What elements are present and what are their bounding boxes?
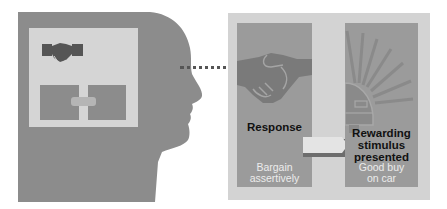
car-sunburst-icon [345, 23, 418, 133]
reward-column: Rewarding stimulus presented Good buy on… [345, 23, 418, 187]
arrow-right-icon [300, 134, 350, 160]
reward-title-2: stimulus [345, 139, 418, 152]
response-subtitle-2: assertively [237, 173, 312, 185]
handshake-icon [237, 43, 312, 123]
response-column: Response Bargain assertively [237, 23, 312, 187]
connector-bar [71, 97, 96, 106]
reward-subtitle-2: on car [345, 173, 418, 185]
response-title: Response [237, 121, 312, 134]
reward-title-1: Rewarding [345, 127, 418, 140]
